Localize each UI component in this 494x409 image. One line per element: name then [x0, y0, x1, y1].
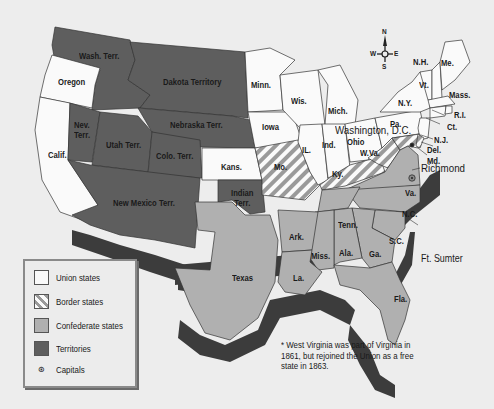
legend-item-confederate: Confederate states	[34, 318, 132, 333]
label-washington-dc: Washington, D.C.	[335, 125, 411, 135]
region-connecticut	[430, 106, 446, 118]
label-oregon: Oregon	[58, 77, 85, 87]
legend-item-union: Union states	[34, 270, 106, 285]
label-mich: Mich.	[328, 106, 348, 116]
footnote: * West Virginia was part of Virginia in …	[281, 340, 422, 372]
union-swatch-icon	[34, 270, 49, 285]
legend-item-border: Border states	[34, 294, 110, 309]
label-ct: Ct.	[447, 122, 457, 132]
label-utah-terr: Utah Terr.	[106, 140, 141, 150]
label-minn: Minn.	[251, 80, 271, 90]
label-richmond: Richmond	[421, 163, 465, 173]
compass-w: W	[370, 50, 376, 57]
label-ky: Ky.	[332, 169, 343, 179]
label-nj: N.J.	[434, 135, 448, 145]
label-il: IL.	[302, 145, 311, 155]
border-swatch-icon	[34, 294, 49, 309]
label-va: Va.	[405, 188, 416, 198]
label-dakota-terr: Dakota Territory	[163, 77, 222, 87]
label-ind: Ind.	[322, 140, 336, 150]
label-ala: Ala.	[339, 248, 353, 258]
label-sc: S.C.	[389, 236, 404, 246]
region-rhode-island	[445, 106, 452, 114]
label-nebraska-terr: Nebraska Terr.	[170, 120, 223, 130]
confederate-swatch-icon	[34, 318, 49, 333]
label-texas: Texas	[232, 273, 253, 283]
compass-e: E	[394, 50, 398, 57]
label-mo: Mo.	[274, 162, 287, 172]
label-iowa: Iowa	[262, 122, 279, 132]
label-colo-terr: Colo. Terr.	[156, 151, 193, 161]
label-kans: Kans.	[221, 162, 242, 172]
label-nev-terr: Nev. Terr.	[74, 120, 90, 140]
compass-n: N	[382, 28, 387, 35]
label-new-mexico-terr: New Mexico Terr.	[113, 198, 175, 208]
label-ga: Ga.	[369, 249, 381, 259]
label-ri: R.I.	[454, 110, 466, 120]
label-calif: Calif.	[48, 150, 67, 160]
label-ft-sumter: Ft. Sumter	[421, 253, 463, 263]
capital-star-icon: ⊛	[34, 365, 49, 374]
legend-item-territories: Territories	[34, 341, 96, 356]
territories-swatch-icon	[34, 341, 49, 356]
label-indian-terr: Indian Terr.	[231, 188, 254, 208]
label-miss: Miss.	[311, 251, 330, 261]
label-tenn: Tenn.	[338, 220, 358, 230]
label-la: La.	[293, 273, 304, 283]
label-nc: N.C.	[402, 209, 417, 219]
label-nh: N.H.	[413, 57, 428, 67]
capital-washington-dc	[410, 143, 414, 147]
label-wash-terr: Wash. Terr.	[79, 51, 119, 61]
label-mass: Mass.	[449, 90, 470, 100]
compass-rose-icon: N W E S	[370, 28, 400, 72]
label-me: Me.	[441, 58, 454, 68]
label-ark: Ark.	[289, 232, 304, 242]
label-ohio: Ohio	[347, 137, 364, 147]
label-wis: Wis.	[291, 96, 307, 106]
label-fla: Fla.	[394, 294, 407, 304]
map-legend: Union states Border states Confederate s…	[23, 259, 137, 388]
region-arkansas	[278, 210, 318, 252]
legend-item-capitals: ⊛ Capitals	[34, 362, 89, 377]
label-vt: Vt.	[419, 80, 429, 90]
label-del: Del.	[427, 145, 441, 155]
label-ny: N.Y.	[398, 98, 412, 108]
label-w-va: W.Va.	[360, 148, 380, 158]
compass-s: S	[382, 63, 386, 70]
